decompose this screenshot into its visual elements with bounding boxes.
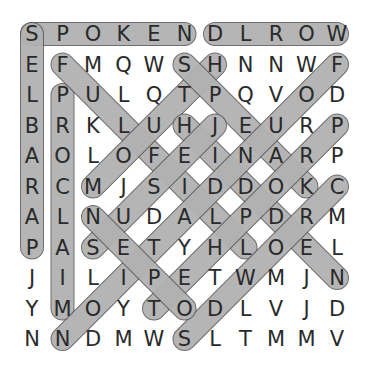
grid-cell[interactable]: V bbox=[261, 294, 291, 324]
grid-cell[interactable]: C bbox=[322, 172, 352, 202]
grid-cell[interactable]: E bbox=[109, 233, 139, 263]
grid-cell[interactable]: A bbox=[17, 202, 47, 232]
grid-cell[interactable]: R bbox=[17, 172, 47, 202]
grid-cell[interactable]: O bbox=[261, 233, 291, 263]
grid-cell[interactable]: N bbox=[231, 141, 261, 171]
grid-cell[interactable]: B bbox=[17, 111, 47, 141]
grid-cell[interactable]: N bbox=[48, 324, 78, 354]
grid-cell[interactable]: I bbox=[48, 263, 78, 293]
grid-cell[interactable]: L bbox=[231, 233, 261, 263]
grid-cell[interactable]: K bbox=[78, 111, 108, 141]
grid-cell[interactable]: L bbox=[17, 80, 47, 110]
grid-cell[interactable]: M bbox=[78, 50, 108, 80]
grid-cell[interactable]: U bbox=[78, 80, 108, 110]
grid-cell[interactable]: P bbox=[17, 233, 47, 263]
grid-cell[interactable]: A bbox=[170, 202, 200, 232]
grid-cell[interactable]: O bbox=[261, 172, 291, 202]
grid-cell[interactable]: P bbox=[139, 263, 169, 293]
grid-cell[interactable]: M bbox=[48, 294, 78, 324]
grid-cell[interactable]: O bbox=[78, 19, 108, 49]
grid-cell[interactable]: O bbox=[292, 80, 322, 110]
grid-cell[interactable]: J bbox=[200, 111, 230, 141]
grid-cell[interactable]: L bbox=[231, 19, 261, 49]
grid-cell[interactable]: R bbox=[292, 111, 322, 141]
grid-cell[interactable]: T bbox=[139, 294, 169, 324]
grid-cell[interactable]: V bbox=[261, 80, 291, 110]
grid-cell[interactable]: M bbox=[292, 324, 322, 354]
grid-cell[interactable]: Q bbox=[139, 80, 169, 110]
grid-cell[interactable]: U bbox=[109, 202, 139, 232]
grid-cell[interactable]: R bbox=[48, 111, 78, 141]
grid-cell[interactable]: E bbox=[17, 50, 47, 80]
grid-cell[interactable]: M bbox=[78, 172, 108, 202]
grid-cell[interactable]: M bbox=[109, 324, 139, 354]
grid-cell[interactable]: I bbox=[109, 263, 139, 293]
grid-cell[interactable]: E bbox=[292, 233, 322, 263]
grid-cell[interactable]: S bbox=[170, 50, 200, 80]
grid-cell[interactable]: K bbox=[109, 19, 139, 49]
grid-cell[interactable]: T bbox=[139, 233, 169, 263]
grid-cell[interactable]: S bbox=[17, 19, 47, 49]
grid-cell[interactable]: P bbox=[48, 80, 78, 110]
grid-cell[interactable]: V bbox=[322, 324, 352, 354]
grid-cell[interactable]: J bbox=[292, 263, 322, 293]
grid-cell[interactable]: A bbox=[17, 141, 47, 171]
grid-cell[interactable]: T bbox=[200, 263, 230, 293]
grid-cell[interactable]: I bbox=[200, 141, 230, 171]
grid-cell[interactable]: A bbox=[48, 233, 78, 263]
grid-cell[interactable]: M bbox=[261, 324, 291, 354]
grid-cell[interactable]: D bbox=[139, 202, 169, 232]
grid-cell[interactable]: L bbox=[48, 202, 78, 232]
grid-cell[interactable]: D bbox=[322, 294, 352, 324]
grid-cell[interactable]: L bbox=[231, 294, 261, 324]
grid-cell[interactable]: U bbox=[139, 111, 169, 141]
grid-cell[interactable]: H bbox=[170, 111, 200, 141]
grid-cell[interactable]: Q bbox=[109, 50, 139, 80]
grid-cell[interactable]: C bbox=[48, 172, 78, 202]
grid-cell[interactable]: M bbox=[322, 202, 352, 232]
grid-cell[interactable]: L bbox=[322, 233, 352, 263]
grid-cell[interactable]: N bbox=[17, 324, 47, 354]
grid-cell[interactable]: W bbox=[292, 50, 322, 80]
grid-cell[interactable]: D bbox=[261, 202, 291, 232]
grid-cell[interactable]: Y bbox=[170, 233, 200, 263]
grid-cell[interactable]: N bbox=[261, 50, 291, 80]
grid-cell[interactable]: T bbox=[170, 80, 200, 110]
grid-cell[interactable]: L bbox=[200, 202, 230, 232]
grid-cell[interactable]: Y bbox=[17, 294, 47, 324]
grid-cell[interactable]: N bbox=[78, 202, 108, 232]
grid-cell[interactable]: N bbox=[322, 263, 352, 293]
grid-cell[interactable]: N bbox=[170, 19, 200, 49]
grid-cell[interactable]: P bbox=[322, 111, 352, 141]
grid-cell[interactable]: I bbox=[170, 172, 200, 202]
grid-cell[interactable]: H bbox=[200, 50, 230, 80]
grid-cell[interactable]: J bbox=[17, 263, 47, 293]
grid-cell[interactable]: S bbox=[170, 324, 200, 354]
grid-cell[interactable]: D bbox=[200, 19, 230, 49]
grid-cell[interactable]: A bbox=[261, 141, 291, 171]
grid-cell[interactable]: E bbox=[231, 111, 261, 141]
grid-cell[interactable]: M bbox=[261, 263, 291, 293]
grid-cell[interactable]: E bbox=[170, 141, 200, 171]
grid-cell[interactable]: O bbox=[48, 141, 78, 171]
grid-cell[interactable]: L bbox=[78, 141, 108, 171]
grid-cell[interactable]: O bbox=[292, 19, 322, 49]
grid-cell[interactable]: R bbox=[292, 141, 322, 171]
grid-cell[interactable]: W bbox=[322, 19, 352, 49]
grid-cell[interactable]: L bbox=[109, 80, 139, 110]
grid-cell[interactable]: F bbox=[48, 50, 78, 80]
grid-cell[interactable]: P bbox=[322, 141, 352, 171]
grid-cell[interactable]: D bbox=[200, 294, 230, 324]
grid-cell[interactable]: K bbox=[292, 172, 322, 202]
grid-cell[interactable]: D bbox=[231, 172, 261, 202]
grid-cell[interactable]: W bbox=[139, 50, 169, 80]
grid-cell[interactable]: O bbox=[170, 294, 200, 324]
grid-cell[interactable]: P bbox=[231, 202, 261, 232]
grid-cell[interactable]: T bbox=[231, 324, 261, 354]
grid-cell[interactable]: P bbox=[48, 19, 78, 49]
grid-cell[interactable]: H bbox=[200, 233, 230, 263]
grid-cell[interactable]: U bbox=[261, 111, 291, 141]
grid-cell[interactable]: Y bbox=[109, 294, 139, 324]
grid-cell[interactable]: W bbox=[139, 324, 169, 354]
grid-cell[interactable]: J bbox=[109, 172, 139, 202]
